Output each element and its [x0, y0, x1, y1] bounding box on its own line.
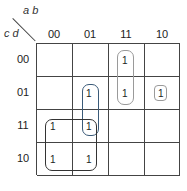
col-header: 00 [36, 28, 72, 40]
loop-ab11-cd00-01 [117, 50, 134, 105]
cell [144, 44, 180, 77]
col-variables-label: a b [23, 4, 38, 16]
cell [109, 110, 145, 143]
cell [37, 44, 73, 77]
cell [73, 44, 109, 77]
row-variables-label: c d [4, 27, 19, 39]
col-header: 10 [144, 28, 180, 40]
loop-ab10-cd01 [154, 85, 167, 101]
row-header: 10 [12, 152, 34, 164]
row-header: 11 [12, 119, 34, 131]
col-header: 11 [108, 28, 144, 40]
loop-ab00-01-cd11-10 [45, 119, 97, 171]
cell [144, 143, 180, 176]
cell [144, 110, 180, 143]
col-header: 01 [72, 28, 108, 40]
cell [109, 143, 145, 176]
cell [37, 77, 73, 110]
row-header: 00 [12, 53, 34, 65]
row-header: 01 [12, 86, 34, 98]
